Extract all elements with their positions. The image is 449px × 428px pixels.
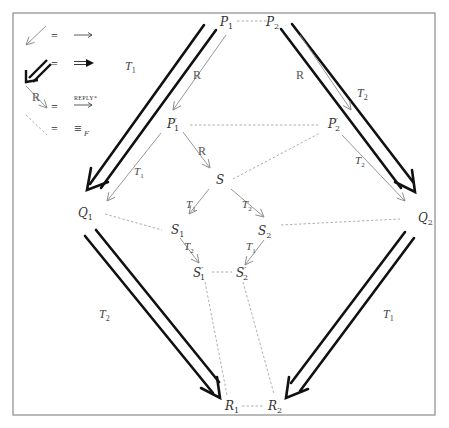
legend-dashed-row: = ≡ F [26,115,90,138]
node-P2: P2 [265,15,279,31]
dashed-line-icon [26,115,47,135]
label-T2-S1-S1p: T2 [184,240,194,255]
big-arrow-top-left [87,25,216,190]
label-R-P2-P2p: R [296,68,304,82]
node-S1-prime: S′1 [193,265,205,282]
diagram-frame [13,13,435,415]
node-S1: S1 [171,223,184,239]
thin-arrows [107,35,405,265]
node-Q1: Q1 [78,206,93,222]
label-big-T2-top-right: T2 [357,86,368,102]
label-R-P1p-S: R [198,144,206,158]
node-R2: R2 [267,399,282,415]
legend-equals: = [51,100,58,114]
legend-thin-arrow-row: = [26,26,92,45]
reply-star-label: REPLY* [74,95,97,101]
label-big-T1-top-left: T1 [125,59,136,75]
node-Q2: Q2 [418,211,433,227]
legend-double-arrow-row: = [26,57,94,82]
diagram-canvas: = = R = REPLY* = ≡ F [0,0,449,428]
node-S2: S2 [258,224,271,240]
label-T1-P1p-Q1: T1 [134,165,144,180]
node-P1-prime: P′1 [166,116,179,133]
dashed-equivalences [105,21,400,406]
label-R-P1-P1p: R [193,68,201,82]
node-S2-prime: S′2 [236,265,248,282]
node-R1: R1 [224,399,239,415]
node-S: S [216,173,224,187]
legend: = = R = REPLY* = ≡ F [26,26,97,138]
label-T1-S2-S2p: T1 [246,240,256,255]
equiv-S2-Q2 [281,219,400,225]
label-big-T1-bottom-right: T1 [383,307,394,323]
label-big-T2-bottom-left: T2 [99,307,110,323]
legend-equals: = [51,57,58,71]
thin-arrow-icon [26,26,46,45]
edge-P2p-to-Q2 [342,135,405,201]
big-arrow-bottom-right [286,232,414,398]
label-T2-P2p-Q2: T2 [355,154,365,169]
double-arrow-icon [29,60,47,78]
big-arrow-top-right [281,24,415,192]
reply-arrow-label: R [32,90,40,104]
equiv-S-P2p [233,133,320,179]
equiv-Q1-S1 [105,214,162,230]
equiv-subscript-f: F [83,130,90,138]
equiv-S2p-R2 [243,282,274,394]
legend-equals: = [51,29,58,43]
node-P2-prime: P′2 [327,116,340,133]
label-T2-S-S2: T2 [242,198,252,213]
legend-equals: = [51,122,58,136]
legend-reply-arrow-row: R = REPLY* [26,86,97,114]
edge-P2-to-P2p [300,35,351,110]
node-P1: P1 [219,15,233,31]
equiv-symbol: ≡ [74,121,81,136]
